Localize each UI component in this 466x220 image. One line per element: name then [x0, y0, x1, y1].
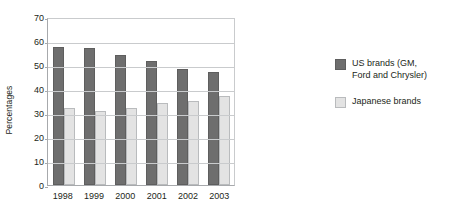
gridline: [48, 139, 234, 140]
gridline: [48, 91, 234, 92]
y-axis-tick-label: 10: [20, 158, 44, 167]
bar-us-brands: [146, 61, 157, 185]
y-axis-tickmark: [45, 19, 48, 20]
y-axis-tickmark: [45, 139, 48, 140]
legend-item-japanese-brands: Japanese brands: [335, 96, 465, 108]
legend-swatch-japanese-brands: [335, 97, 346, 108]
legend-label-us-brands-line2: Ford and Chrysler): [352, 70, 427, 80]
legend: US brands (GM, Ford and Chrysler) Japane…: [335, 58, 465, 123]
x-axis-tick-label: 2001: [141, 190, 172, 206]
x-axis-tick-label: 2002: [172, 190, 203, 206]
x-axis-tick-label: 2003: [204, 190, 235, 206]
y-axis-tick-label: 20: [20, 134, 44, 143]
bar-chart: Percentages 706050403020100 199819992000…: [0, 0, 466, 220]
x-axis-tick-labels: 199819992000200120022003: [47, 190, 235, 206]
y-axis-tick-label: 60: [20, 38, 44, 47]
legend-label-japanese-brands: Japanese brands: [352, 96, 421, 108]
bar-japanese-brands: [126, 108, 137, 185]
bar-us-brands: [208, 72, 219, 185]
y-axis-tick-label: 70: [20, 14, 44, 23]
bar-japanese-brands: [219, 96, 230, 185]
legend-item-us-brands: US brands (GM, Ford and Chrysler): [335, 58, 465, 81]
legend-label-us-brands: US brands (GM, Ford and Chrysler): [352, 58, 427, 81]
x-axis-tick-label: 2000: [110, 190, 141, 206]
gridline: [48, 43, 234, 44]
y-axis-tickmark: [45, 43, 48, 44]
plot-area: [47, 18, 235, 186]
y-axis-tick-label: 30: [20, 110, 44, 119]
x-axis-tick-label: 1999: [78, 190, 109, 206]
gridline: [48, 67, 234, 68]
bar-japanese-brands: [95, 111, 106, 185]
y-axis-tick-label: 50: [20, 62, 44, 71]
y-axis-tickmark: [45, 163, 48, 164]
y-axis-tickmark: [45, 67, 48, 68]
legend-swatch-us-brands: [335, 59, 346, 70]
y-axis-title: Percentages: [0, 0, 18, 220]
x-axis-tick-label: 1998: [47, 190, 78, 206]
y-axis-tick-label: 0: [20, 182, 44, 191]
bar-us-brands: [115, 55, 126, 185]
y-axis-tick-label: 40: [20, 86, 44, 95]
legend-label-us-brands-line1: US brands (GM,: [352, 58, 417, 68]
bar-japanese-brands: [188, 101, 199, 185]
y-axis-tickmark: [45, 115, 48, 116]
gridline: [48, 115, 234, 116]
y-axis-tickmark: [45, 91, 48, 92]
bar-japanese-brands: [64, 108, 75, 185]
bar-us-brands: [84, 48, 95, 185]
gridline: [48, 163, 234, 164]
y-axis-tick-labels: 706050403020100: [20, 12, 44, 186]
y-axis-tickmark: [45, 187, 48, 188]
bar-us-brands: [177, 69, 188, 185]
